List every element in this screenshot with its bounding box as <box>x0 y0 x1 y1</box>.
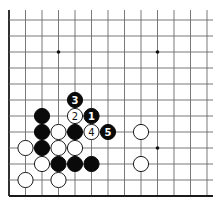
black-stone-icon <box>51 156 66 171</box>
star-point <box>156 146 160 150</box>
black-stone-icon <box>34 124 49 139</box>
black-stone-icon <box>34 140 49 155</box>
white-stone-icon <box>51 172 66 187</box>
move-number-label: 4 <box>88 127 94 138</box>
black-stone-icon <box>67 156 82 171</box>
stones-layer: 32145 <box>18 92 149 187</box>
white-stone <box>18 172 33 187</box>
go-board-diagram: 32145 <box>0 0 223 210</box>
white-stone <box>133 124 148 139</box>
white-stone-icon <box>133 124 148 139</box>
white-stone <box>133 156 148 171</box>
black-stone <box>34 108 49 123</box>
white-stone <box>18 140 33 155</box>
move-3-black-stone: 3 <box>67 92 82 107</box>
white-stone <box>67 140 82 155</box>
white-stone-icon <box>18 172 33 187</box>
black-stone <box>51 156 66 171</box>
move-5-black-stone: 5 <box>100 124 115 139</box>
move-number-label: 2 <box>72 111 78 122</box>
move-1-black-stone: 1 <box>84 108 99 123</box>
black-stone-icon <box>84 156 99 171</box>
move-number-label: 5 <box>105 127 112 138</box>
white-stone-icon <box>18 140 33 155</box>
white-stone <box>51 140 66 155</box>
black-stone-icon <box>34 108 49 123</box>
move-number-label: 1 <box>88 111 95 122</box>
move-4-white-stone: 4 <box>84 124 99 139</box>
black-stone <box>67 156 82 171</box>
white-stone-icon <box>34 156 49 171</box>
black-stone-icon <box>67 124 82 139</box>
move-2-white-stone: 2 <box>67 108 82 123</box>
white-stone <box>34 156 49 171</box>
white-stone-icon <box>51 124 66 139</box>
black-stone <box>67 124 82 139</box>
white-stone-icon <box>133 156 148 171</box>
star-point <box>156 50 160 54</box>
black-stone <box>34 124 49 139</box>
white-stone <box>51 172 66 187</box>
black-stone <box>84 156 99 171</box>
white-stone <box>51 124 66 139</box>
black-stone <box>34 140 49 155</box>
white-stone-icon <box>67 140 82 155</box>
star-point <box>57 50 61 54</box>
move-number-label: 3 <box>72 95 79 106</box>
white-stone-icon <box>51 140 66 155</box>
